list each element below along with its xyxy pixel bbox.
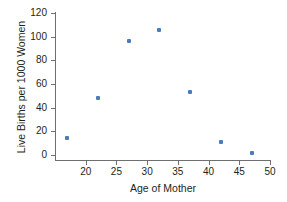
- x-axis-tick: [239, 161, 240, 165]
- x-axis-tick-label: 50: [253, 167, 287, 177]
- y-axis-tick-label: 80: [5, 55, 47, 65]
- x-axis-tick-label: 30: [130, 167, 164, 177]
- y-axis-tick: [51, 108, 55, 109]
- y-axis-tick: [51, 13, 55, 14]
- y-axis-tick-label: 0: [5, 150, 47, 160]
- y-axis-tick-label: 100: [5, 32, 47, 42]
- y-axis-tick: [51, 84, 55, 85]
- x-axis-tick: [270, 161, 271, 165]
- scatter-chart-figure: Live Births per 1000 Women Age of Mother…: [0, 0, 287, 202]
- y-axis-tick-label: 20: [5, 126, 47, 136]
- y-axis-tick: [51, 131, 55, 132]
- data-point: [127, 39, 131, 43]
- data-point: [219, 140, 223, 144]
- x-axis-tick-label: 40: [192, 167, 226, 177]
- x-axis-tick: [178, 161, 179, 165]
- x-axis-tick: [147, 161, 148, 165]
- x-axis-tick: [209, 161, 210, 165]
- y-axis-tick-label: 120: [5, 8, 47, 18]
- y-axis-tick: [51, 37, 55, 38]
- x-axis-tick: [116, 161, 117, 165]
- data-point: [157, 28, 161, 32]
- data-point: [188, 90, 192, 94]
- y-axis-tick-label: 60: [5, 79, 47, 89]
- data-point: [250, 151, 254, 155]
- x-axis-title: Age of Mother: [55, 182, 271, 194]
- y-axis-tick: [51, 60, 55, 61]
- x-axis-tick-label: 20: [69, 167, 103, 177]
- x-axis-tick-label: 35: [161, 167, 195, 177]
- y-axis-tick: [51, 155, 55, 156]
- data-point: [96, 96, 100, 100]
- y-axis-tick-label: 40: [5, 103, 47, 113]
- plot-area: [55, 13, 270, 161]
- x-axis-tick: [86, 161, 87, 165]
- x-axis-tick-label: 45: [222, 167, 256, 177]
- x-axis-tick-label: 25: [99, 167, 133, 177]
